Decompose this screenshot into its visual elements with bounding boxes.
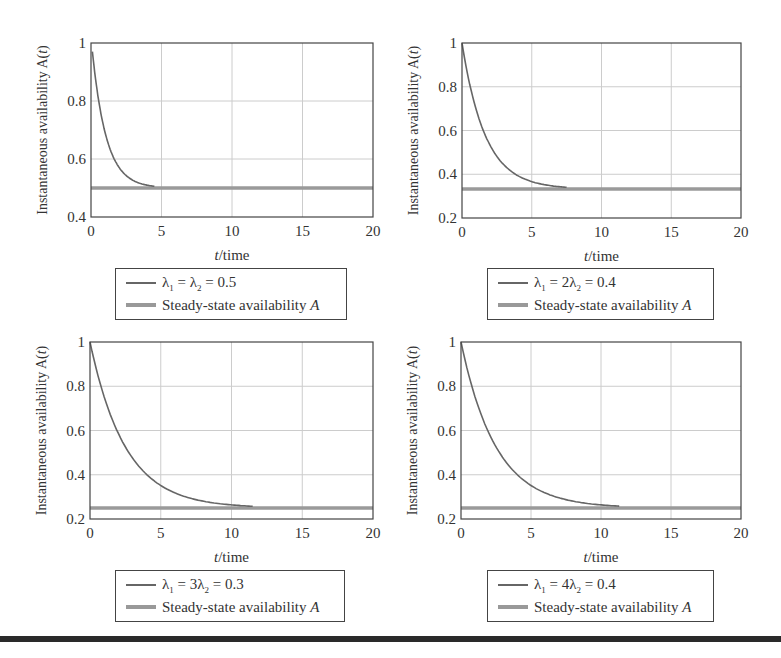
legend-entry-curve: λ1 = λ2 = 0.5 (116, 272, 236, 294)
curve-swatch-icon (126, 584, 156, 586)
legend-entry-curve: λ1 = 4λ2 = 0.4 (488, 574, 616, 596)
x-axis-label: t/time (214, 549, 249, 565)
y-tick-label: 0.4 (66, 467, 85, 483)
x-tick-label: 0 (86, 525, 94, 541)
y-tick-label: 1 (450, 35, 458, 51)
y-tick-label: 0.6 (438, 123, 457, 139)
x-tick-label: 10 (594, 525, 609, 541)
y-tick-label: 0.6 (437, 423, 456, 439)
y-tick-label: 1 (79, 35, 87, 51)
y-tick-label: 0.2 (66, 511, 85, 527)
y-tick-label: 0.8 (438, 79, 457, 95)
availability-figure: 051015200.40.60.81t/timeInstantaneous av… (0, 0, 781, 658)
x-tick-label: 15 (664, 525, 679, 541)
y-axis-label: Instantaneous availability A(t) (406, 45, 422, 215)
legend-label-steady: Steady-state availability A (162, 599, 319, 616)
legend-entry-curve: λ1 = 3λ2 = 0.3 (116, 574, 244, 596)
chart-panel-top-left: 051015200.40.60.81t/timeInstantaneous av… (35, 35, 381, 263)
y-tick-label: 0.8 (67, 93, 86, 109)
legend-entry-steady-state: Steady-state availability A (116, 294, 319, 316)
x-tick-label: 0 (458, 224, 466, 240)
legend-label-curve: λ1 = 3λ2 = 0.3 (162, 576, 244, 595)
legend-label-steady: Steady-state availability A (534, 599, 691, 616)
x-axis-label: t/time (584, 549, 619, 565)
legend-entry-steady-state: Steady-state availability A (488, 596, 691, 618)
y-tick-label: 1 (449, 334, 457, 350)
x-tick-label: 5 (158, 223, 166, 239)
legend-label-curve: λ1 = 2λ2 = 0.4 (534, 274, 616, 293)
curve-swatch-icon (498, 584, 528, 586)
x-tick-label: 10 (224, 525, 239, 541)
y-tick-label: 0.2 (437, 511, 456, 527)
y-tick-label: 1 (78, 334, 86, 350)
legend-label-steady: Steady-state availability A (162, 297, 319, 314)
chart-panel-bottom-right: 051015200.20.40.60.81t/timeInstantaneous… (405, 334, 749, 565)
legend-top-right: λ1 = 2λ2 = 0.4Steady-state availability … (487, 268, 714, 320)
x-tick-label: 5 (157, 525, 165, 541)
x-axis-label: t/time (584, 248, 619, 264)
legend-bottom-right: λ1 = 4λ2 = 0.4Steady-state availability … (487, 570, 714, 622)
legend-label-steady: Steady-state availability A (534, 297, 691, 314)
y-axis-label: Instantaneous availability A(t) (34, 345, 50, 515)
y-axis-label: Instantaneous availability A(t) (35, 45, 51, 215)
y-tick-label: 0.8 (437, 378, 456, 394)
y-tick-label: 0.2 (438, 210, 457, 226)
x-tick-label: 5 (527, 525, 535, 541)
legend-label-curve: λ1 = 4λ2 = 0.4 (534, 576, 616, 595)
curve-swatch-icon (126, 282, 156, 284)
legend-bottom-left: λ1 = 3λ2 = 0.3Steady-state availability … (115, 570, 345, 622)
steady-swatch-icon (498, 303, 528, 307)
x-tick-label: 15 (664, 224, 679, 240)
x-tick-label: 20 (366, 525, 381, 541)
y-tick-label: 0.8 (66, 378, 85, 394)
chart-panel-bottom-left: 051015200.20.40.60.81t/timeInstantaneous… (34, 334, 381, 565)
x-tick-label: 20 (734, 224, 749, 240)
curve-swatch-icon (498, 282, 528, 284)
chart-panel-top-right: 051015200.20.40.60.81t/timeInstantaneous… (406, 35, 749, 264)
x-tick-label: 0 (457, 525, 465, 541)
x-tick-label: 15 (295, 223, 310, 239)
legend-label-curve: λ1 = λ2 = 0.5 (162, 274, 236, 293)
legend-entry-curve: λ1 = 2λ2 = 0.4 (488, 272, 616, 294)
x-tick-label: 10 (594, 224, 609, 240)
x-tick-label: 20 (734, 525, 749, 541)
x-tick-label: 10 (225, 223, 240, 239)
y-axis-label: Instantaneous availability A(t) (405, 345, 421, 515)
x-axis-label: t/time (215, 247, 250, 263)
y-tick-label: 0.4 (437, 467, 456, 483)
legend-entry-steady-state: Steady-state availability A (116, 596, 319, 618)
x-tick-label: 15 (295, 525, 310, 541)
y-tick-label: 0.6 (67, 151, 86, 167)
y-tick-label: 0.4 (438, 166, 457, 182)
y-tick-label: 0.6 (66, 423, 85, 439)
steady-swatch-icon (126, 605, 156, 609)
legend-top-left: λ1 = λ2 = 0.5Steady-state availability A (115, 268, 347, 320)
x-tick-label: 20 (366, 223, 381, 239)
steady-swatch-icon (498, 605, 528, 609)
bottom-rule-divider (0, 636, 781, 642)
legend-entry-steady-state: Steady-state availability A (488, 294, 691, 316)
steady-swatch-icon (126, 303, 156, 307)
y-tick-label: 0.4 (67, 209, 86, 225)
x-tick-label: 0 (87, 223, 95, 239)
x-tick-label: 5 (528, 224, 536, 240)
